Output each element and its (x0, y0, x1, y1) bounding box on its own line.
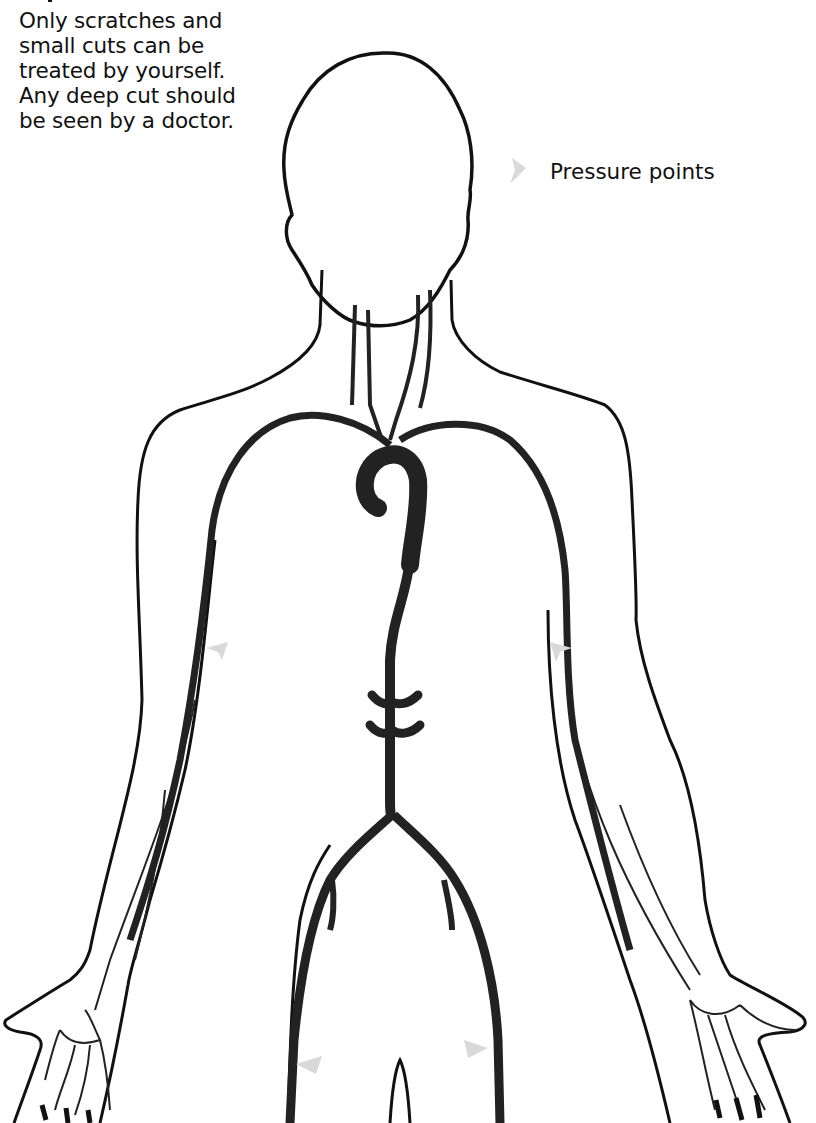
left-fingertips (42, 1105, 90, 1123)
internal-iliac-left (330, 880, 333, 930)
descending-aorta (390, 560, 410, 820)
head-outline (284, 53, 472, 326)
pressure-point-arrow-icon (206, 642, 228, 660)
body-illustration (0, 0, 816, 1123)
body-outline-right (451, 280, 805, 1123)
body-outline-left (5, 270, 322, 1123)
first-aid-bleeding-diagram: Only scratches and small cuts can be tre… (0, 0, 816, 1123)
crotch-outline (390, 1060, 410, 1123)
right-fingertips (716, 1095, 760, 1120)
iliac-artery-right (394, 815, 500, 1123)
internal-iliac-right (444, 880, 452, 930)
iliac-artery-left (290, 815, 392, 1123)
carotid-artery-left-2 (368, 310, 382, 440)
pressure-point-arrow-icon (464, 1040, 488, 1058)
subclavian-artery-right (400, 424, 630, 950)
aortic-arch (365, 454, 419, 565)
pressure-point-arrow-icon (296, 1056, 322, 1074)
subclavian-artery-left (130, 415, 390, 940)
left-palmar-arch (45, 1010, 110, 1115)
